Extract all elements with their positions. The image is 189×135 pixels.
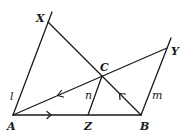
label-l: l — [10, 90, 14, 103]
label-a: A — [6, 120, 16, 133]
segment-xb — [48, 22, 141, 115]
label-c: C — [100, 61, 109, 74]
label-y: Y — [171, 45, 180, 58]
label-b: B — [139, 120, 149, 133]
label-m: m — [152, 89, 162, 102]
segment-ay — [13, 48, 167, 115]
label-z: Z — [83, 120, 93, 133]
line-l — [13, 12, 52, 115]
geometry-diagram: X Y C A Z B l n m — [0, 0, 189, 135]
label-n: n — [85, 89, 92, 102]
line-m — [141, 38, 171, 115]
label-x: X — [35, 12, 45, 25]
